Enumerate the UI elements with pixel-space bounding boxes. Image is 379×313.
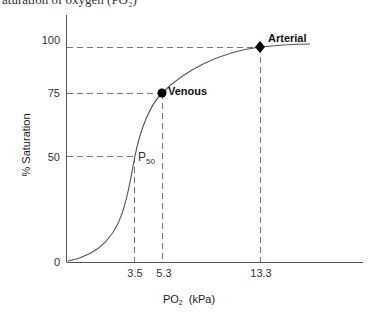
x-tick-3-5: 3.5 xyxy=(127,267,142,279)
x-axis-title: PO2(kPa) xyxy=(163,293,215,306)
x-tick-5-3: 5.3 xyxy=(156,267,171,279)
y-axis-title: % Saturation xyxy=(20,114,32,177)
arterial-point-marker xyxy=(255,41,265,53)
y-tick-0: 0 xyxy=(54,256,60,268)
venous-point-marker xyxy=(158,89,167,98)
oxygen-dissociation-chart: Venous Arterial P50 0 50 75 100 3.5 5.3 … xyxy=(0,0,379,313)
y-tick-100: 100 xyxy=(42,34,60,46)
y-tick-50: 50 xyxy=(48,151,60,163)
x-tick-13-3: 13.3 xyxy=(250,267,271,279)
y-tick-75: 75 xyxy=(48,87,60,99)
guide-lines xyxy=(67,47,261,262)
p50-label: P50 xyxy=(138,150,155,166)
arterial-label: Arterial xyxy=(268,32,307,44)
venous-label: Venous xyxy=(168,85,207,97)
saturation-curve xyxy=(68,44,310,261)
